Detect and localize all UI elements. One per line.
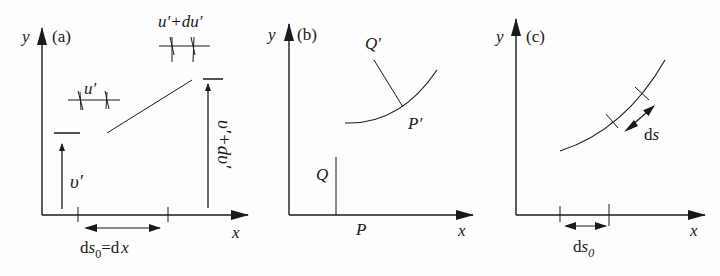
y-axis-label: y — [20, 27, 30, 46]
x-axis-label: x — [231, 223, 240, 242]
x-axis-label: x — [457, 221, 466, 240]
panel-a: y (a) x ds0=dx υ′ u′ u′+du′ υ′+dυ′ — [20, 12, 248, 261]
deformed-curve — [345, 70, 437, 123]
v-prime-label: υ′ — [70, 171, 84, 192]
ds-label: ds — [644, 125, 660, 144]
panel-tag-a: (a) — [52, 27, 71, 46]
panel-b: y (b) x Q P Q′ P′ — [266, 24, 473, 240]
ds0-label: ds0 — [573, 237, 594, 260]
segment-P-prime-Q-prime — [374, 60, 403, 107]
point-Q-label: Q — [316, 165, 328, 184]
y-axis-label: y — [494, 27, 504, 46]
u-prime-du-label: u′+du′ — [158, 12, 203, 31]
curve-tick-2 — [635, 87, 649, 100]
point-P-label: P — [355, 220, 366, 239]
u-prime-du-cross-2b — [193, 37, 194, 62]
point-P-prime-label: P′ — [407, 114, 422, 133]
point-Q-prime-label: Q′ — [365, 34, 381, 53]
panel-tag-b: (b) — [297, 25, 317, 44]
y-axis-label: y — [266, 25, 276, 44]
x-axis-label: x — [689, 221, 698, 240]
arrowhead-left — [564, 222, 576, 230]
arrowhead-left — [84, 224, 97, 232]
ds0-equals-dx-label: ds0=dx — [80, 238, 129, 261]
panel-c: y (c) x ds0 ds — [494, 19, 705, 260]
diagram-svg: y (a) x ds0=dx υ′ u′ u′+du′ υ′+dυ′ — [0, 0, 720, 276]
deformed-element-line — [107, 80, 192, 133]
v-prime-dv-label: υ′+dυ′ — [214, 120, 235, 169]
u-prime-label: u′ — [84, 79, 97, 98]
deformation-diagram: y (a) x ds0=dx υ′ u′ u′+du′ υ′+dυ′ — [0, 0, 720, 276]
u-prime-cross-1b — [80, 92, 81, 110]
panel-tag-c: (c) — [526, 27, 545, 46]
